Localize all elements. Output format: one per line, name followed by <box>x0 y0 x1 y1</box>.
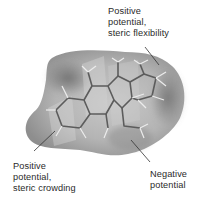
label-line: potential, <box>108 17 169 28</box>
label-positive-potential-steric-flexibility: Positive potential, steric flexibility <box>108 6 169 39</box>
label-line: Negative <box>150 169 187 180</box>
label-negative-potential: Negative potential <box>150 169 187 191</box>
label-line: steric crowding <box>13 183 76 194</box>
electrostatic-surface <box>26 50 186 155</box>
label-line: potential, <box>13 172 76 183</box>
molecular-surface-figure: Positive potential, steric flexibility P… <box>0 0 205 209</box>
label-line: steric flexibility <box>108 28 169 39</box>
label-line: potential <box>150 180 187 191</box>
label-line: Positive <box>108 6 169 17</box>
label-positive-potential-steric-crowding: Positive potential, steric crowding <box>13 161 76 194</box>
label-line: Positive <box>13 161 76 172</box>
